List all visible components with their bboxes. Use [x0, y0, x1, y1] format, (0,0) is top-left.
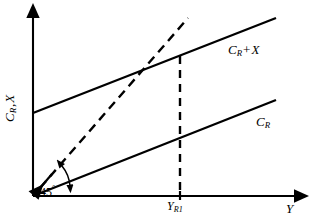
series-label-cr-symbol: C	[256, 114, 265, 129]
series-label-cr-plus-x-symbol: C	[228, 42, 237, 57]
y-axis-label-symbol1: C	[2, 113, 17, 122]
degree-icon: °	[52, 183, 56, 193]
x-axis-tick-label-symbol: Y	[167, 199, 174, 213]
y-axis-label: CR,X	[3, 95, 16, 122]
economics-line-diagram: CR+X CR CR,X YR1 Y 45°	[0, 0, 313, 221]
angle-label: 45°	[40, 184, 56, 198]
forty-five-degree-line	[40, 18, 188, 188]
y-axis-label-symbol2: X	[2, 95, 17, 103]
x-axis-label: Y	[286, 202, 293, 215]
line-cr-plus-x	[33, 18, 276, 113]
x-axis-tick-label-sub: R1	[174, 205, 183, 214]
x-axis-tick-label-yr1: YR1	[167, 200, 183, 212]
series-label-cr-sub: R	[265, 120, 270, 130]
angle-label-value: 45	[40, 185, 52, 199]
series-label-cr-plus-x-sub: R	[237, 48, 242, 58]
y-axis-label-sub1: R	[8, 108, 18, 113]
series-label-cr-plus-x: CR+X	[228, 43, 259, 56]
series-label-cr: CR	[256, 115, 270, 128]
series-label-cr-plus-x-symbol2: X	[251, 42, 259, 57]
